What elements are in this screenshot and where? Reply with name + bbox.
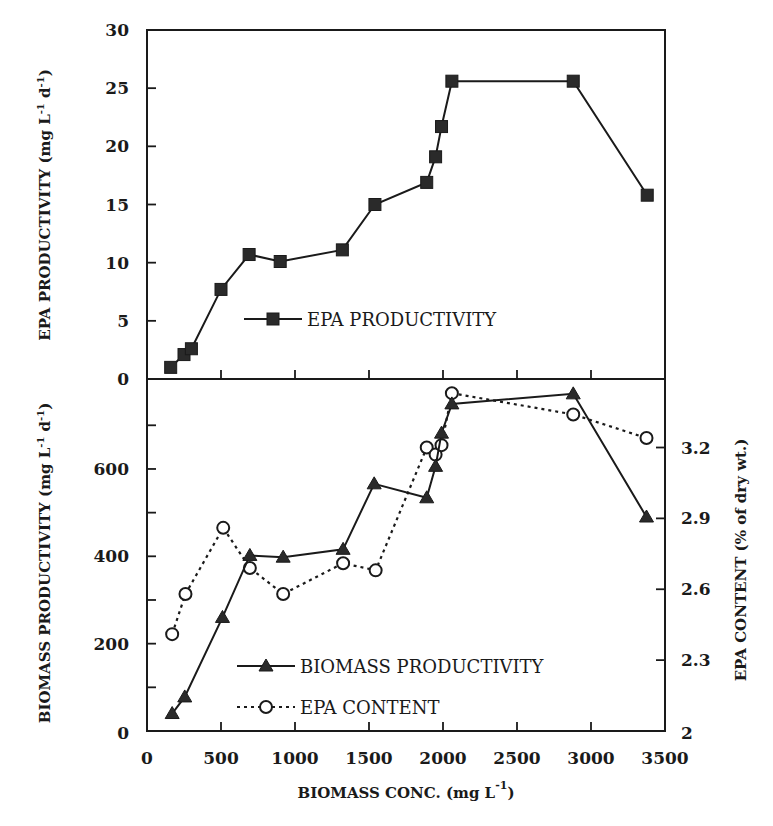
- x-tick-label: 3500: [641, 748, 688, 768]
- epa-content-line: [172, 393, 646, 634]
- legends: EPA PRODUCTIVITYBIOMASS PRODUCTIVITYEPA …: [237, 309, 545, 718]
- y-tick-label-left: 0: [117, 723, 129, 743]
- legend-epa-productivity-marker-sample: [267, 313, 279, 325]
- biomass-productivity-point: [243, 548, 257, 560]
- epa-productivity-point: [243, 249, 255, 261]
- bottom-left-y-axis-title: BIOMASS PRODUCTIVITY (mg L-1 d-1): [35, 403, 54, 724]
- epa-productivity-point: [567, 75, 579, 87]
- epa-content-point: [179, 588, 191, 600]
- epa-content-point: [277, 588, 289, 600]
- epa-content-point: [337, 557, 349, 569]
- epa-productivity-point: [421, 176, 433, 188]
- plot-border: [147, 30, 665, 731]
- plot-frame: [147, 30, 665, 731]
- epa-productivity-point: [165, 361, 177, 373]
- biomass-productivity-point: [429, 459, 443, 471]
- legend-epa-content-label: EPA CONTENT: [300, 697, 440, 718]
- y-tick-label: 20: [105, 136, 129, 156]
- y-tick-label-right: 2.9: [681, 508, 711, 528]
- x-axis-title: BIOMASS CONC. (mg L-1): [298, 779, 515, 802]
- epa-content-point: [567, 408, 579, 420]
- top-y-axis-title: EPA PRODUCTIVITY (mg L-1 d-1): [35, 69, 54, 341]
- biomass-productivity-point: [215, 610, 229, 622]
- y-tick-label: 10: [105, 253, 129, 273]
- epa-productivity-point: [430, 151, 442, 163]
- y-tick-label-right: 2: [681, 723, 693, 743]
- y-tick-label: 15: [105, 195, 129, 215]
- epa-productivity-point: [446, 75, 458, 87]
- top-panel-axes: 051015202530: [105, 20, 591, 389]
- legend-epa-productivity: EPA PRODUCTIVITY: [244, 309, 497, 330]
- y-tick-label: 30: [105, 20, 129, 40]
- legend-epa-productivity-label: EPA PRODUCTIVITY: [307, 309, 497, 330]
- epa-productivity-point: [336, 244, 348, 256]
- epa-content-point: [166, 628, 178, 640]
- y-tick-label-right: 3.2: [681, 438, 711, 458]
- legend-epa-content-marker-sample: [260, 701, 272, 713]
- epa-productivity-point: [436, 121, 448, 133]
- y-tick-label-left: 400: [94, 546, 130, 566]
- y-tick-label-right: 2.6: [681, 579, 711, 599]
- legend-biomass-productivity: BIOMASS PRODUCTIVITY: [237, 656, 545, 677]
- legend-epa-content: EPA CONTENT: [237, 697, 440, 718]
- y-tick-label: 25: [105, 78, 129, 98]
- y-tick-label: 5: [117, 311, 129, 331]
- y-tick-label-right: 2.3: [681, 650, 711, 670]
- x-tick-label: 1000: [271, 748, 318, 768]
- biomass-productivity-point: [336, 542, 350, 554]
- y-tick-label-left: 600: [94, 459, 130, 479]
- biomass-productivity-point: [367, 477, 381, 489]
- legend-biomass-productivity-label: BIOMASS PRODUCTIVITY: [300, 656, 545, 677]
- biomass-productivity-point: [435, 426, 449, 438]
- x-tick-label: 0: [141, 748, 153, 768]
- epa-productivity-point: [215, 283, 227, 295]
- x-tick-label: 2000: [419, 748, 466, 768]
- x-tick-label: 500: [203, 748, 239, 768]
- bottom-right-y-axis-title: EPA CONTENT (% of dry wt.): [732, 439, 750, 682]
- epa-productivity-point: [185, 343, 197, 355]
- x-tick-label: 1500: [345, 748, 392, 768]
- chart-canvas: 051015202530 020040060022.32.62.93.20500…: [0, 0, 773, 826]
- epa-content-point: [641, 432, 653, 444]
- y-tick-label-left: 200: [94, 634, 130, 654]
- epa-productivity-point: [369, 199, 381, 211]
- biomass-productivity-point: [640, 510, 654, 522]
- epa-content-point: [370, 564, 382, 576]
- epa-content-point: [217, 522, 229, 534]
- x-tick-label: 3000: [567, 748, 614, 768]
- x-tick-label: 2500: [493, 748, 540, 768]
- figure-composite-chart: 051015202530 020040060022.32.62.93.20500…: [0, 0, 773, 826]
- biomass-productivity-point: [178, 690, 192, 702]
- biomass-productivity-point: [566, 387, 580, 399]
- epa-content-point: [436, 439, 448, 451]
- epa-productivity-point: [641, 189, 653, 201]
- y-tick-label: 0: [117, 369, 129, 389]
- epa-productivity-point: [274, 256, 286, 268]
